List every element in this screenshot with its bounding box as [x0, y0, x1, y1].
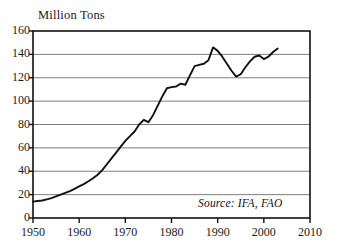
y-tick-label-80: 80: [0, 117, 30, 132]
x-tick-label-1960: 1960: [59, 225, 99, 240]
x-tick-label-2000: 2000: [244, 225, 284, 240]
y-tick-label-60: 60: [0, 140, 30, 155]
y-tick-label-100: 100: [0, 93, 30, 108]
gridlines-group: [33, 54, 310, 194]
x-tick-label-1970: 1970: [105, 225, 145, 240]
y-tick-label-160: 160: [0, 23, 30, 38]
source-annotation: Source: IFA, FAO: [198, 197, 282, 209]
y-tick-label-120: 120: [0, 70, 30, 85]
plot-area: [0, 0, 337, 252]
x-tick-label-1980: 1980: [152, 225, 192, 240]
y-tick-label-40: 40: [0, 163, 30, 178]
y-tick-label-0: 0: [0, 210, 30, 225]
y-tick-label-140: 140: [0, 46, 30, 61]
x-tick-label-1950: 1950: [13, 225, 53, 240]
y-tick-label-20: 20: [0, 187, 30, 202]
chart-container: Million Tons 020406080100120140160 19501…: [0, 0, 337, 252]
x-tick-label-1990: 1990: [198, 225, 238, 240]
x-tick-label-2010: 2010: [290, 225, 330, 240]
